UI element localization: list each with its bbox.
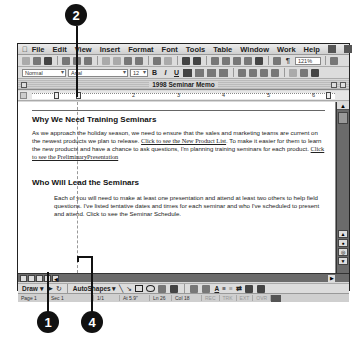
justify-icon[interactable] xyxy=(219,69,228,77)
collapse-box-icon[interactable] xyxy=(340,82,346,88)
italic-button[interactable]: I xyxy=(161,69,170,76)
horizontal-scrollbar[interactable]: ◀ ▶ xyxy=(18,273,349,282)
menu-table[interactable]: Table xyxy=(213,45,232,54)
status-ovr[interactable]: OVR xyxy=(253,295,271,301)
oval-tool-icon[interactable] xyxy=(146,285,155,292)
style-select[interactable]: Normal xyxy=(22,69,66,77)
underline-button[interactable]: U xyxy=(172,69,181,76)
web-toolbar-icon[interactable] xyxy=(193,57,201,65)
scroll-left-arrow-icon[interactable]: ◀ xyxy=(52,275,59,282)
draw-menu-button[interactable]: Draw ▾ xyxy=(22,285,44,293)
menu-work[interactable]: Work xyxy=(277,45,296,54)
menu-font[interactable]: Font xyxy=(162,45,178,54)
tables-borders-icon[interactable] xyxy=(211,57,219,65)
office-assistant-icon[interactable] xyxy=(330,57,338,65)
text-box-icon[interactable] xyxy=(158,285,166,293)
fill-color-icon[interactable] xyxy=(190,285,198,293)
paragraph-why-training: As we approach the holiday season, we ne… xyxy=(32,129,328,161)
status-rec[interactable]: REC xyxy=(202,295,220,301)
shadow-icon[interactable] xyxy=(245,285,253,293)
line-style-icon[interactable]: ≡ xyxy=(222,285,226,292)
open-icon[interactable] xyxy=(33,57,41,65)
redo-icon[interactable] xyxy=(164,57,172,65)
paste-icon[interactable] xyxy=(124,57,132,65)
status-trk[interactable]: TRK xyxy=(220,295,237,301)
font-color-icon[interactable] xyxy=(311,69,319,77)
menu-tools[interactable]: Tools xyxy=(186,45,205,54)
autoshapes-menu-button[interactable]: AutoShapes ▾ xyxy=(73,285,117,293)
undo-icon[interactable] xyxy=(153,57,161,65)
numbering-icon[interactable] xyxy=(238,69,246,77)
balloon-help-icon[interactable] xyxy=(328,45,336,53)
dash-style-icon[interactable]: ≡ xyxy=(229,285,233,292)
rectangle-tool-icon[interactable] xyxy=(135,285,143,292)
wordart-icon[interactable] xyxy=(170,285,178,293)
toolbar-separator xyxy=(67,284,68,293)
application-menu-icon[interactable] xyxy=(344,45,352,53)
new-document-icon[interactable] xyxy=(22,57,30,65)
scroll-right-arrow-icon[interactable]: ▶ xyxy=(328,275,335,282)
browse-object-icon[interactable]: ◎ xyxy=(338,248,348,256)
insert-excel-icon[interactable] xyxy=(233,57,241,65)
select-browse-object-icon[interactable]: ● xyxy=(338,239,348,247)
tab-selector-icon[interactable] xyxy=(20,92,27,99)
copy-icon[interactable] xyxy=(113,57,121,65)
line-tool-icon[interactable]: ╲ xyxy=(119,285,123,293)
menu-help[interactable]: Help xyxy=(304,45,320,54)
align-left-icon[interactable] xyxy=(183,69,192,77)
zoom-box-icon[interactable] xyxy=(331,82,337,88)
toolbar-separator xyxy=(148,56,149,65)
horizontal-ruler[interactable]: 2 1 3 4 5 6 xyxy=(18,91,349,101)
link-new-product-list[interactable]: Click to see the New Product List xyxy=(141,137,226,144)
vertical-scrollbar[interactable]: ▲ ▲ ● ◎ ▼ xyxy=(336,102,349,273)
spelling-icon[interactable] xyxy=(84,57,92,65)
menu-edit[interactable]: Edit xyxy=(53,45,67,54)
bullets-icon[interactable] xyxy=(249,69,257,77)
menu-file[interactable]: File xyxy=(32,45,45,54)
status-column: Col 18 xyxy=(172,295,202,301)
border-icon[interactable] xyxy=(289,69,297,77)
arrow-tool-icon[interactable]: ↘ xyxy=(126,285,132,293)
format-painter-icon[interactable] xyxy=(135,57,143,65)
document-area[interactable]: Why We Need Training Seminars As we appr… xyxy=(18,102,336,273)
increase-indent-icon[interactable] xyxy=(271,69,279,77)
right-indent-marker[interactable] xyxy=(326,92,331,99)
save-icon[interactable] xyxy=(44,57,52,65)
next-page-icon[interactable]: ▼ xyxy=(338,257,348,265)
arrow-style-icon[interactable]: ⇄ xyxy=(236,285,242,293)
drawing-icon[interactable] xyxy=(255,57,263,65)
3d-icon[interactable] xyxy=(257,285,265,293)
normal-view-button[interactable] xyxy=(20,275,27,282)
close-box-icon[interactable] xyxy=(21,82,27,88)
scroll-thumb[interactable] xyxy=(338,112,348,124)
decrease-indent-icon[interactable] xyxy=(260,69,268,77)
online-layout-view-button[interactable] xyxy=(28,275,35,282)
font-size-select[interactable]: 12 xyxy=(130,69,148,77)
insert-table-icon[interactable] xyxy=(222,57,230,65)
document-map-icon[interactable] xyxy=(273,57,281,65)
menu-window[interactable]: Window xyxy=(240,45,269,54)
free-rotate-icon[interactable]: ↻ xyxy=(56,285,62,293)
status-ext[interactable]: EXT xyxy=(237,295,254,301)
bold-button[interactable]: B xyxy=(150,69,159,76)
apple-menu-icon[interactable]:  xyxy=(22,45,28,54)
cut-icon[interactable] xyxy=(102,57,110,65)
line-color-icon[interactable] xyxy=(202,285,210,293)
spelling-status-icon[interactable] xyxy=(271,295,281,302)
print-icon[interactable] xyxy=(62,57,70,65)
align-center-icon[interactable] xyxy=(195,69,204,77)
scroll-up-arrow-icon[interactable]: ▲ xyxy=(337,102,349,110)
page-layout-view-button[interactable] xyxy=(36,275,43,282)
align-right-icon[interactable] xyxy=(207,69,216,77)
show-hide-pilcrow-icon[interactable]: ¶ xyxy=(284,57,292,65)
zoom-select[interactable]: 121% xyxy=(295,57,321,65)
font-color-draw-icon[interactable]: A xyxy=(214,285,219,292)
hanging-indent-marker[interactable] xyxy=(54,92,59,99)
highlight-icon[interactable] xyxy=(300,69,308,77)
document-title-bar[interactable]: 1998 Seminar Memo xyxy=(18,80,349,90)
menu-insert[interactable]: Insert xyxy=(100,45,120,54)
columns-icon[interactable] xyxy=(244,57,252,65)
previous-page-icon[interactable]: ▲ xyxy=(338,230,348,238)
insert-hyperlink-icon[interactable] xyxy=(182,57,190,65)
menu-format[interactable]: Format xyxy=(128,45,153,54)
